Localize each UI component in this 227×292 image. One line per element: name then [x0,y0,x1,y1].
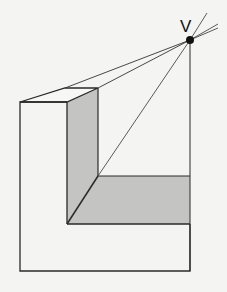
vanishing-point-label: V [180,17,192,36]
perspective-diagram: V [0,0,227,292]
vanishing-line-corner [98,40,190,176]
vanishing-line-top-left [65,40,190,88]
vanishing-point [186,36,194,44]
vanishing-line-top-right [98,40,190,88]
extension-line-2 [190,24,218,40]
